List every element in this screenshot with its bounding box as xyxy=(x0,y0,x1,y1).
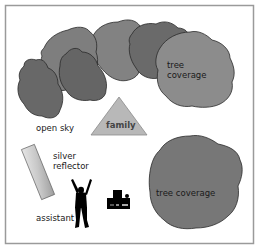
assistant-label: assistant xyxy=(36,213,75,223)
lighting-diagram: tree coverage tree coverage open sky fam… xyxy=(0,0,260,249)
tree-canopy-bottom xyxy=(149,135,242,228)
reflector-label-line2: reflector xyxy=(53,161,89,171)
reflector-label-line1: silver xyxy=(53,151,76,161)
tree-top-label-line1: tree xyxy=(167,60,184,70)
tree-top-label-line2: coverage xyxy=(167,70,206,80)
tree-bottom-label: tree coverage xyxy=(156,188,215,198)
family-label: family xyxy=(106,120,136,130)
open-sky-label: open sky xyxy=(36,123,74,133)
